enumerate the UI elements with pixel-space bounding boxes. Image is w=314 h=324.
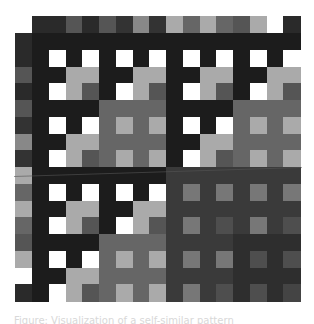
left-column-cell [15, 83, 32, 100]
grid-cell [267, 217, 284, 234]
grid-cell [283, 67, 300, 84]
header-cell [116, 16, 133, 33]
grid-cell [166, 50, 183, 67]
grid-cell [133, 234, 150, 251]
grid-cell [66, 284, 83, 301]
grid-cell [267, 50, 284, 67]
grid-cell [250, 268, 267, 285]
grid-cell [49, 67, 66, 84]
grid-cell [283, 201, 300, 218]
grid-cell [166, 67, 183, 84]
grid-cell [32, 268, 49, 285]
grid-cell [283, 150, 300, 167]
header-cell [250, 16, 267, 33]
left-column-cell [15, 268, 32, 285]
grid-cell [133, 251, 150, 268]
grid-cell [99, 167, 116, 184]
grid-cell [82, 33, 99, 50]
grid-cell [66, 83, 83, 100]
grid-cell [283, 33, 300, 50]
grid-cell [250, 217, 267, 234]
grid-cell [133, 184, 150, 201]
header-cell [183, 16, 200, 33]
grid-cell [166, 83, 183, 100]
grid-cell [82, 234, 99, 251]
grid-cell [66, 100, 83, 117]
grid-cell [250, 184, 267, 201]
grid-cell [49, 251, 66, 268]
grid-cell [183, 150, 200, 167]
grid-cell [32, 50, 49, 67]
grid-cell [166, 217, 183, 234]
grid-cell [133, 217, 150, 234]
grid-cell [233, 184, 250, 201]
grid-cell [216, 83, 233, 100]
grid-cell [32, 201, 49, 218]
header-cell [49, 16, 66, 33]
header-cell [149, 16, 166, 33]
grid-cell [82, 83, 99, 100]
grid-cell [200, 234, 217, 251]
left-column-cell [15, 33, 32, 50]
grid-cell [233, 100, 250, 117]
grid-cell [283, 117, 300, 134]
grid-cell [133, 83, 150, 100]
grid-cell [133, 67, 150, 84]
header-cell [82, 16, 99, 33]
grid-cell [82, 268, 99, 285]
grid-cell [183, 251, 200, 268]
left-column-cell [15, 284, 32, 301]
grid-cell [116, 50, 133, 67]
grid-cell [149, 100, 166, 117]
grid-cell [250, 167, 267, 184]
grid-cell [99, 217, 116, 234]
grid-cell [149, 67, 166, 84]
grid-cell [183, 117, 200, 134]
grid-cell [149, 201, 166, 218]
grid-cell [149, 50, 166, 67]
header-cell [233, 16, 250, 33]
grid-cell [267, 150, 284, 167]
grid-cell [49, 201, 66, 218]
grid-cell [200, 100, 217, 117]
header-cell [283, 16, 300, 33]
grid-cell [66, 150, 83, 167]
grid-cell [99, 134, 116, 151]
grid-cell [283, 134, 300, 151]
grid-cell [166, 117, 183, 134]
grid-cell [149, 134, 166, 151]
grid-cell [82, 201, 99, 218]
grid-cell [233, 83, 250, 100]
grid-cell [66, 67, 83, 84]
grid-cell [82, 167, 99, 184]
grid-cell [216, 201, 233, 218]
grid-cell [233, 217, 250, 234]
grid-cell [116, 234, 133, 251]
grid-cell [66, 134, 83, 151]
grid-cell [32, 251, 49, 268]
grid-cell [149, 150, 166, 167]
grid-cell [116, 83, 133, 100]
grid-cell [283, 100, 300, 117]
grid-cell [99, 50, 116, 67]
grid-cell [82, 184, 99, 201]
grid-cell [166, 234, 183, 251]
grid-cell [116, 150, 133, 167]
figure-caption: Figure: Visualization of a self-similar … [14, 316, 304, 324]
grid-cell [216, 150, 233, 167]
grid-cell [82, 217, 99, 234]
grid-cell [149, 33, 166, 50]
grid-cell [233, 33, 250, 50]
header-cell [32, 16, 49, 33]
grid-cell [133, 201, 150, 218]
grid-cell [183, 234, 200, 251]
grid-cell [99, 234, 116, 251]
grid-cell [149, 251, 166, 268]
grid-cell [32, 33, 49, 50]
grid-cell [32, 100, 49, 117]
grid-cell [267, 83, 284, 100]
grid-cell [116, 268, 133, 285]
grid-cell [183, 33, 200, 50]
grid-cell [250, 117, 267, 134]
grid-cell [233, 117, 250, 134]
